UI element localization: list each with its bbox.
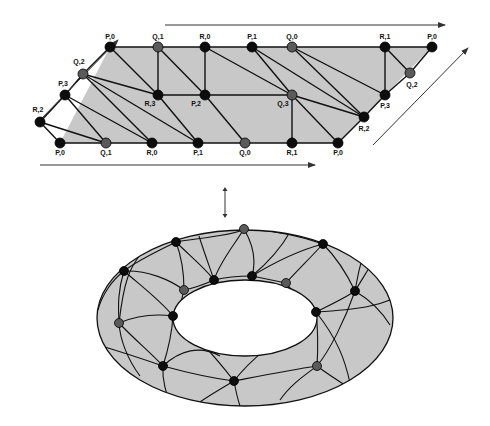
torus-triangulation-diagram: P,0Q,1R,0P,1Q,0R,1P,0Q,2P,3R,2R,3P,2Q,3P… (0, 0, 490, 426)
torus-vertex (172, 238, 181, 247)
torus-vertex (159, 362, 168, 371)
torus-surface (0, 0, 490, 426)
torus-inner-hole (173, 280, 317, 356)
torus-vertex (115, 319, 124, 328)
torus-vertex (248, 272, 257, 281)
torus-vertex (312, 308, 321, 317)
torus-vertex (180, 286, 189, 295)
torus-vertex (282, 279, 291, 288)
torus-vertex (313, 362, 322, 371)
torus-vertex (120, 267, 129, 276)
torus-vertex (319, 240, 328, 249)
torus-vertex (351, 287, 360, 296)
torus-vertex (240, 225, 249, 234)
torus-vertex (230, 377, 239, 386)
torus-vertex (169, 312, 178, 321)
torus-vertex (210, 276, 219, 285)
